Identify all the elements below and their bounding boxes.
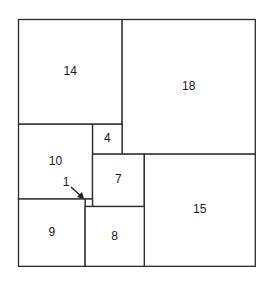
squared-rectangle-diagram: 141841071598 1 [0, 0, 267, 293]
square-label-7: 7 [115, 172, 122, 186]
square-label-4: 4 [104, 131, 111, 145]
square-label-10: 10 [49, 154, 63, 168]
square-label-15: 15 [193, 202, 207, 216]
square-label-9: 9 [48, 225, 55, 239]
square-label-14: 14 [64, 64, 78, 78]
square-label-18: 18 [182, 79, 196, 93]
square-1 [85, 199, 92, 206]
callout-label: 1 [63, 175, 70, 189]
square-label-8: 8 [111, 229, 118, 243]
